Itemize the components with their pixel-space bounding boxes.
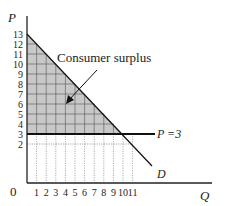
y-tick-label: 6 bbox=[18, 99, 23, 110]
y-tick-label: 5 bbox=[18, 109, 23, 120]
price-line-label: P =3 bbox=[156, 127, 181, 141]
x-tick-label: 8 bbox=[101, 187, 106, 198]
x-tick-label: 1 bbox=[34, 187, 39, 198]
x-tick-label: 4 bbox=[63, 187, 68, 198]
demand-label: D bbox=[156, 167, 166, 181]
x-tick-label: 3 bbox=[53, 187, 58, 198]
y-tick-label: 9 bbox=[18, 69, 23, 80]
x-tick-label: 9 bbox=[111, 187, 116, 198]
x-tick-label: 5 bbox=[73, 187, 78, 198]
q-axis-label: Q bbox=[200, 188, 210, 203]
y-tick-label: 7 bbox=[18, 89, 23, 100]
y-tick-label: 13 bbox=[13, 29, 23, 40]
x-tick-label: 7 bbox=[92, 187, 97, 198]
p-axis-label: P bbox=[7, 10, 16, 25]
quantity-dashed-lines bbox=[27, 134, 133, 183]
y-tick-label: 3 bbox=[18, 129, 23, 140]
x-tick-label: 2 bbox=[44, 187, 49, 198]
y-tick-label: 11 bbox=[13, 49, 23, 60]
consumer-surplus-label: Consumer surplus bbox=[57, 50, 151, 65]
y-tick-label: 2 bbox=[18, 139, 23, 150]
y-tick-label: 4 bbox=[18, 119, 23, 130]
x-tick-label: 6 bbox=[82, 187, 87, 198]
y-tick-label: 10 bbox=[13, 59, 23, 70]
y-tick-label: 8 bbox=[18, 79, 23, 90]
origin-label: 0 bbox=[10, 184, 17, 199]
y-tick-label: 12 bbox=[13, 39, 23, 50]
x-tick-label: 11 bbox=[128, 187, 138, 198]
consumer-surplus-chart: 23456789101112131234567891011 P Q 0 D P … bbox=[0, 0, 227, 206]
x-tick-label: 10 bbox=[118, 187, 128, 198]
